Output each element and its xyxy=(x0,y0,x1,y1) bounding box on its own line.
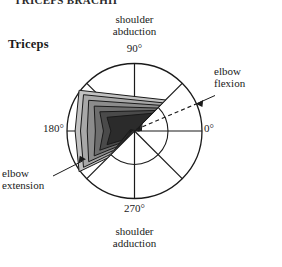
muscle-label: Triceps xyxy=(8,38,88,52)
axis-label-0deg: 0° xyxy=(204,123,238,135)
elbow-extension-label: elbow extension xyxy=(2,168,68,192)
shoulder-abduction-label: shoulder abduction xyxy=(86,14,183,38)
elbow-extension-line2: extension xyxy=(2,180,68,192)
elbow-flexion-line2: flexion xyxy=(214,78,280,90)
axis-label-180deg: 180° xyxy=(28,123,64,135)
contour-1 xyxy=(107,113,152,144)
shoulder-adduction-label: shoulder adduction xyxy=(86,226,183,250)
shoulder-adduction-line2: adduction xyxy=(86,238,183,250)
axis-label-270deg: 270° xyxy=(110,203,159,215)
axis-label-90deg: 90° xyxy=(110,43,159,55)
spoke-315deg xyxy=(135,131,183,179)
shoulder-abduction-line2: abduction xyxy=(86,26,183,38)
elbow-flexion-label: elbow flexion xyxy=(214,66,280,90)
